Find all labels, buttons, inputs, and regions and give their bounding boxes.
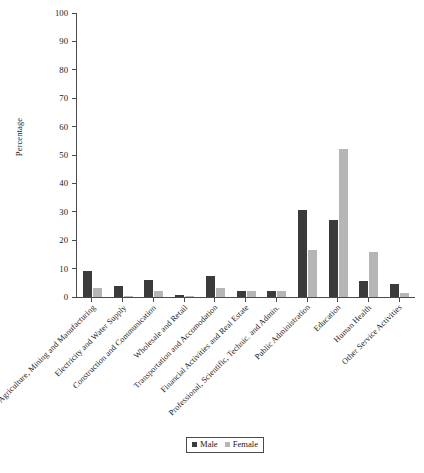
bar-female[interactable] [185, 296, 194, 297]
bar-group [200, 13, 231, 297]
bar-group [169, 13, 200, 297]
bar-female[interactable] [339, 149, 348, 297]
bar-male[interactable] [175, 295, 184, 297]
x-axis-label: Professional, Scientific, Technic. and A… [167, 303, 282, 418]
bar-female[interactable] [369, 252, 378, 297]
legend-label-male: Male [200, 439, 218, 450]
bar-group [323, 13, 354, 297]
x-axis-tick-mark [368, 298, 369, 302]
bar-male[interactable] [114, 286, 123, 297]
x-axis-tick [230, 298, 261, 303]
bar-group [138, 13, 169, 297]
bar-group [108, 13, 139, 297]
y-axis-tick-100: 100 [0, 7, 80, 19]
bar-group [77, 13, 108, 297]
bar-female[interactable] [93, 288, 102, 297]
x-axis-tick-mark [399, 298, 400, 302]
x-axis-tick [291, 298, 322, 303]
bar-group [292, 13, 323, 297]
bar-male[interactable] [298, 210, 307, 297]
y-axis-tick-label: 40 [26, 177, 68, 189]
bar-female[interactable] [124, 296, 133, 297]
y-axis-tick-labels: 0102030405060708090100 [0, 0, 80, 310]
y-axis-tick-label: 80 [26, 64, 68, 76]
y-axis-tick-label: 100 [26, 7, 68, 19]
x-axis-tick-mark [122, 298, 123, 302]
y-axis-tick-label: 60 [26, 121, 68, 133]
y-axis-tick-label: 70 [26, 92, 68, 104]
y-axis-tick-label: 20 [26, 234, 68, 246]
x-axis-tick-mark [276, 298, 277, 302]
bar-male[interactable] [267, 291, 276, 297]
x-axis-tick [199, 298, 230, 303]
y-axis-tick-60: 60 [0, 121, 80, 133]
bar-group [231, 13, 262, 297]
y-axis-tick-80: 80 [0, 64, 80, 76]
x-axis-tick-mark [214, 298, 215, 302]
y-axis-tick-20: 20 [0, 234, 80, 246]
bar-male[interactable] [206, 276, 215, 297]
bar-female[interactable] [400, 293, 409, 297]
y-axis-tick-10: 10 [0, 263, 80, 275]
bar-group [384, 13, 415, 297]
x-axis-tick [168, 298, 199, 303]
bar-female[interactable] [247, 291, 256, 297]
x-axis-ticks [76, 298, 414, 303]
chart-legend: Male Female [186, 437, 264, 453]
bar-group [261, 13, 292, 297]
bar-female[interactable] [154, 291, 163, 297]
bar-male[interactable] [329, 220, 338, 297]
legend-swatch-female-icon [225, 442, 230, 447]
bar-male[interactable] [83, 271, 92, 297]
x-axis-tick [353, 298, 384, 303]
y-axis-tick-label: 50 [26, 149, 68, 161]
y-axis-tick-30: 30 [0, 206, 80, 218]
bar-female[interactable] [277, 291, 286, 297]
bar-male[interactable] [144, 280, 153, 297]
x-axis-tick [107, 298, 138, 303]
bar-male[interactable] [359, 281, 368, 297]
x-axis-tick [260, 298, 291, 303]
bar-male[interactable] [237, 291, 246, 297]
x-axis-tick-mark [307, 298, 308, 302]
legend-swatch-male-icon [192, 442, 197, 447]
x-axis-label: Other Service Activities [340, 303, 404, 367]
x-axis-label: Wholesale and Retail [132, 303, 190, 361]
y-axis-tick-40: 40 [0, 177, 80, 189]
x-axis-tick [137, 298, 168, 303]
bar-chart-figure: Percentage 0102030405060708090100 Agricu… [0, 0, 424, 473]
y-axis-tick-label: 0 [26, 291, 68, 303]
y-axis-tick-label: 30 [26, 206, 68, 218]
x-axis-tick-mark [337, 298, 338, 302]
bar-groups [77, 13, 415, 297]
x-axis-tick-mark [153, 298, 154, 302]
legend-item-male: Male [192, 439, 218, 450]
plot-area [76, 13, 415, 298]
x-axis-label: Public Administration [253, 303, 313, 363]
x-axis-tick-mark [184, 298, 185, 302]
legend-item-female: Female [225, 439, 258, 450]
x-axis-tick [76, 298, 107, 303]
bar-group [354, 13, 385, 297]
legend-label-female: Female [233, 439, 258, 450]
y-axis-tick-90: 90 [0, 35, 80, 47]
bar-male[interactable] [390, 284, 399, 297]
y-axis-tick-label: 90 [26, 35, 68, 47]
x-axis-tick [322, 298, 353, 303]
y-axis-tick-0: 0 [0, 291, 80, 303]
x-axis-tick-mark [245, 298, 246, 302]
y-axis-tick-50: 50 [0, 149, 80, 161]
y-axis-tick-label: 10 [26, 263, 68, 275]
bar-female[interactable] [308, 250, 317, 297]
x-axis-tick [383, 298, 414, 303]
y-axis-tick-70: 70 [0, 92, 80, 104]
bar-female[interactable] [216, 288, 225, 297]
x-axis-tick-mark [91, 298, 92, 302]
